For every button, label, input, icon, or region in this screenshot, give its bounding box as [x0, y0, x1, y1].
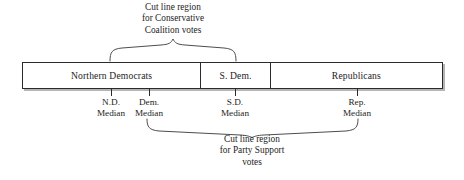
bottom-caption-line-2: for Party Support — [192, 145, 312, 156]
tick-label-sd-median-line-2: Median — [198, 108, 272, 119]
segment-label-southern-democrats: S. Dem. — [219, 70, 251, 81]
top-caption: Cut line region for Conservative Coaliti… — [113, 2, 233, 36]
tick-label-dem-median-line-2: Median — [112, 108, 186, 119]
segment-southern-democrats: S. Dem. — [200, 63, 270, 88]
segment-label-northern-democrats: Northern Democrats — [71, 70, 152, 81]
tick-label-rep-median: Rep. Median — [320, 97, 394, 120]
tick-dem-median — [149, 89, 150, 96]
chamber-bar: Northern Democrats S. Dem. Republicans — [22, 62, 443, 89]
segment-northern-democrats: Northern Democrats — [23, 63, 200, 88]
tick-label-dem-median: Dem. Median — [112, 97, 186, 120]
tick-label-rep-median-line-1: Rep. — [320, 97, 394, 108]
chamber-cutline-diagram: Cut line region for Conservative Coaliti… — [0, 0, 464, 180]
tick-rep-median — [357, 89, 358, 96]
bottom-caption: Cut line region for Party Support votes — [192, 134, 312, 168]
tick-label-sd-median: S.D. Median — [198, 97, 272, 120]
top-caption-line-1: Cut line region — [113, 2, 233, 13]
tick-label-rep-median-line-2: Median — [320, 108, 394, 119]
bottom-caption-line-1: Cut line region — [192, 134, 312, 145]
top-caption-line-2: for Conservative — [113, 13, 233, 24]
bottom-caption-line-3: votes — [192, 157, 312, 168]
top-brace-icon — [106, 38, 240, 62]
tick-label-dem-median-line-1: Dem. — [112, 97, 186, 108]
top-caption-line-3: Coalition votes — [113, 25, 233, 36]
segment-label-republicans: Republicans — [332, 70, 381, 81]
tick-nd-median — [111, 89, 112, 96]
tick-sd-median — [235, 89, 236, 96]
segment-republicans: Republicans — [270, 63, 442, 88]
tick-label-sd-median-line-1: S.D. — [198, 97, 272, 108]
